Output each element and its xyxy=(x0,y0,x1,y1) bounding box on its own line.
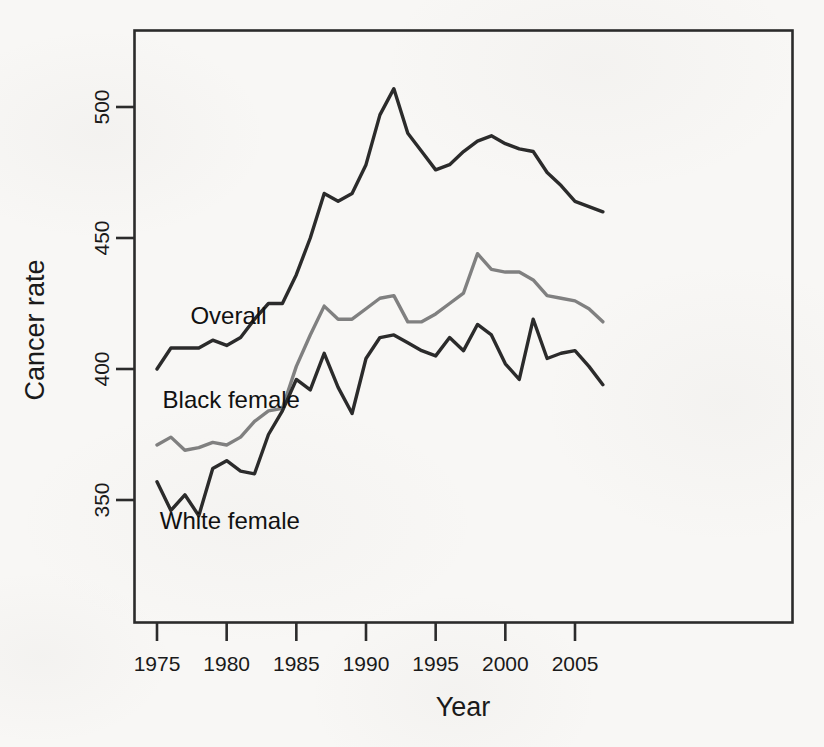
x-tick-label: 1975 xyxy=(134,652,181,675)
x-tick-label: 1995 xyxy=(412,652,459,675)
x-tick-label: 2000 xyxy=(482,652,529,675)
series-line xyxy=(157,254,603,451)
y-tick-label: 500 xyxy=(90,89,113,124)
y-tick-label: 350 xyxy=(90,482,113,517)
y-tick-label: 450 xyxy=(90,220,113,255)
x-tick-label: 1985 xyxy=(273,652,320,675)
y-axis-ticks xyxy=(116,107,134,500)
series-label: Overall xyxy=(190,302,266,329)
series-line xyxy=(157,319,603,515)
y-axis-tick-labels: 350400450500 xyxy=(90,89,113,517)
chart-page: 1975198019851990199520002005 35040045050… xyxy=(0,0,824,747)
y-axis-title: Cancer rate xyxy=(20,259,50,400)
x-axis-title: Year xyxy=(436,692,491,722)
x-tick-label: 1990 xyxy=(343,652,390,675)
x-axis-tick-labels: 1975198019851990199520002005 xyxy=(134,652,599,675)
series-label: White female xyxy=(160,507,300,534)
line-chart: 1975198019851990199520002005 35040045050… xyxy=(0,0,824,747)
series-label: Black female xyxy=(163,386,300,413)
x-tick-label: 1980 xyxy=(203,652,250,675)
x-tick-label: 2005 xyxy=(552,652,599,675)
y-tick-label: 400 xyxy=(90,351,113,386)
x-axis-ticks xyxy=(157,623,575,641)
